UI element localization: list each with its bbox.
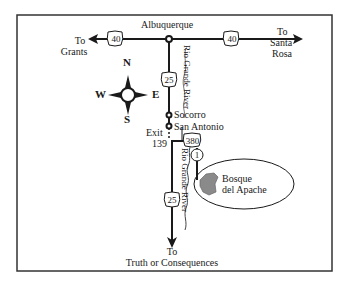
to-truth-label-line2: Truth or Consequences [112, 257, 232, 268]
to-santa-rosa-label-line1: To [277, 26, 287, 37]
to-santa-rosa-label-line3: Rosa [272, 48, 292, 59]
compass-n-label: N [123, 57, 131, 68]
san-antonio-node-icon [167, 124, 172, 129]
directions-map: Albuquerque To Grants To Santa Rosa 40 4… [0, 0, 346, 285]
socorro-node-icon [167, 113, 172, 118]
socorro-label: Socorro [174, 109, 206, 120]
san-antonio-label: San Antonio [174, 121, 224, 132]
i25-south-number: 25 [165, 195, 179, 206]
nm1-number: 1 [191, 150, 203, 161]
bosque-label-line2: del Apache [222, 184, 267, 195]
exit-label-line1: Exit [146, 127, 163, 138]
compass-rose-icon [108, 75, 148, 115]
exit-label-line2: 139 [152, 138, 167, 149]
i25-north-number: 25 [162, 75, 176, 86]
refuge-area-icon [200, 173, 218, 195]
albuquerque-label: Albuquerque [141, 19, 193, 30]
rio-grande-river-north-label: Rio Grande River [181, 45, 192, 109]
to-grants-label-line2: Grants [56, 46, 92, 57]
to-grants-label-line1: To [68, 35, 92, 46]
map-graphics [0, 0, 346, 285]
albuquerque-node-icon [166, 36, 172, 42]
to-santa-rosa-label-line2: Santa [270, 37, 292, 48]
compass-e-label: E [152, 89, 159, 100]
compass-w-label: W [95, 89, 106, 100]
bosque-label-line1: Bosque [222, 173, 252, 184]
us380-number: 380 [184, 136, 201, 147]
compass-s-label: S [124, 114, 130, 125]
rio-grande-river-south-label: Rio Grande River [179, 148, 190, 212]
i40-west-number: 40 [109, 34, 123, 45]
to-truth-label-line1: To [160, 246, 184, 257]
i40-east-number: 40 [225, 34, 239, 45]
